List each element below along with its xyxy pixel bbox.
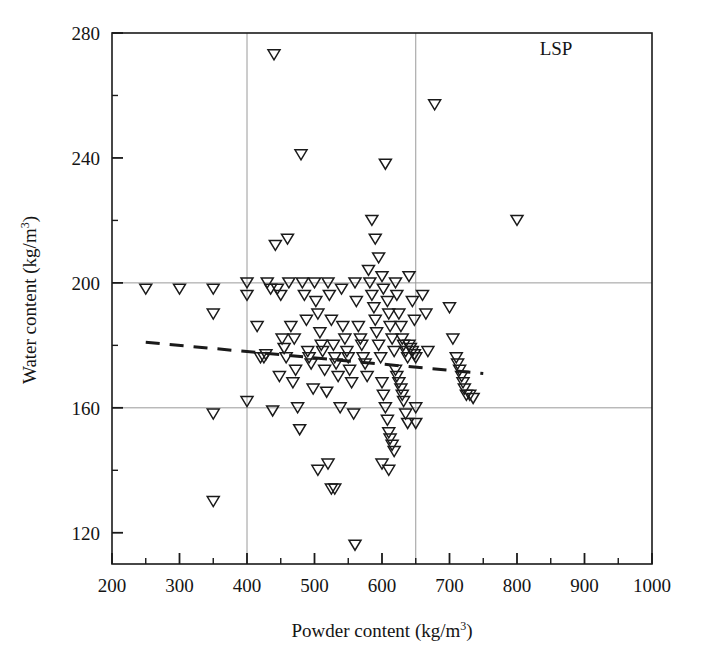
- y-tick-label: 280: [72, 23, 101, 44]
- x-tick-label: 800: [503, 575, 532, 596]
- x-tick-label: 300: [165, 575, 194, 596]
- y-tick-label: 160: [72, 398, 101, 419]
- scatter-plot: 2003004005006007008009001000 12016020024…: [0, 0, 703, 668]
- x-tick-label: 600: [368, 575, 397, 596]
- x-axis-title: Powder content (kg/m3): [291, 619, 472, 642]
- y-tick-label: 240: [72, 148, 101, 169]
- chart-figure: 2003004005006007008009001000 12016020024…: [0, 0, 703, 668]
- x-tick-label: 900: [570, 575, 599, 596]
- y-tick-label: 120: [72, 523, 101, 544]
- x-tick-label: 400: [233, 575, 262, 596]
- series-annotation: LSP: [540, 38, 573, 59]
- y-axis-title: Water content (kg/m3): [18, 216, 41, 384]
- x-tick-label: 200: [98, 575, 127, 596]
- x-tick-label: 500: [300, 575, 329, 596]
- x-tick-label: 1000: [633, 575, 671, 596]
- x-tick-label: 700: [435, 575, 464, 596]
- y-tick-label: 200: [72, 273, 101, 294]
- x-axis-tick-labels: 2003004005006007008009001000: [98, 575, 671, 596]
